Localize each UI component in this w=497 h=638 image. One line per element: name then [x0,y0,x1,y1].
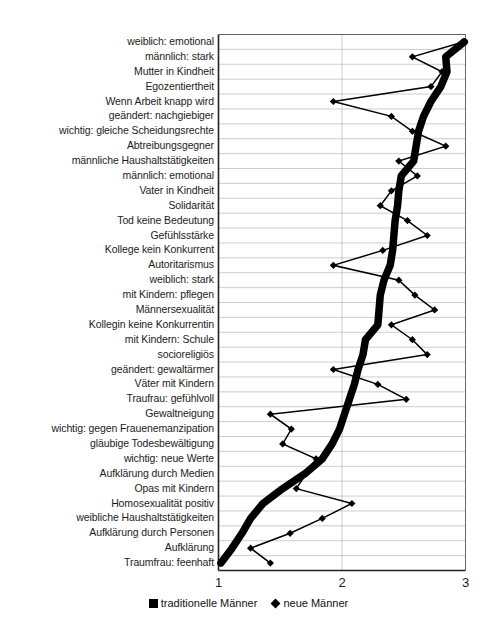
diamond-marker-icon [348,500,355,507]
diamond-marker-icon [287,530,294,537]
diamond-marker-icon [279,440,286,447]
chart-legend: traditionelle Männer neue Männer [0,592,497,614]
legend-label: neue Männer [283,597,348,609]
diamond-marker-icon [330,366,337,373]
chart-figure: weiblich: emotionalmännlich: starkMutter… [0,0,497,638]
diamond-marker-icon [403,396,410,403]
square-marker-icon [149,599,158,608]
x-tick-label: 1 [204,576,234,590]
legend-label: traditionelle Männer [161,597,258,609]
diamond-marker-icon [379,247,386,254]
diamond-marker-icon [330,98,337,105]
plot-area [0,0,497,638]
diamond-marker-icon [330,262,337,269]
x-tick-label: 2 [327,576,357,590]
gridlines [219,35,466,571]
x-tick-label: 3 [451,576,481,590]
diamond-marker-icon [442,143,449,150]
legend-entry-traditionelle-maenner: traditionelle Männer [149,597,258,609]
diamond-marker-icon [374,381,381,388]
legend-entry-neue-maenner: neue Männer [271,597,348,609]
diamond-marker-icon [271,598,281,608]
diamond-marker-icon [319,515,326,522]
diamond-marker-icon [409,53,416,60]
